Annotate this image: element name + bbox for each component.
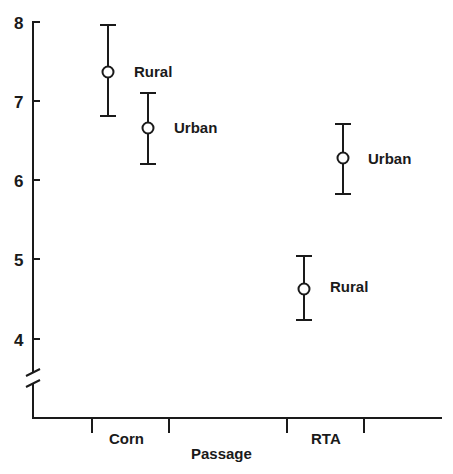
y-tick-label-8: 8 (14, 14, 23, 33)
x-axis-label: Passage (191, 445, 252, 462)
error-bar-corn-rural (100, 25, 116, 116)
annotation-rta-urban: Urban (368, 150, 411, 167)
annotation-corn-urban: Urban (174, 119, 217, 136)
y-tick-label-4: 4 (14, 331, 24, 350)
error-bar-chart: 8 7 6 5 4 Rural Urban Urban Rural Corn R… (0, 0, 453, 474)
error-bar-rta-urban (335, 124, 351, 194)
y-tick-label-7: 7 (14, 93, 23, 112)
annotation-corn-rural: Rural (134, 63, 172, 80)
error-bar-corn-urban (140, 93, 156, 164)
annotation-rta-rural: Rural (330, 278, 368, 295)
x-category-corn: Corn (109, 430, 144, 447)
x-category-rta: RTA (311, 430, 341, 447)
y-tick-label-5: 5 (14, 251, 23, 270)
error-bar-rta-rural (296, 256, 312, 320)
y-tick-label-6: 6 (14, 172, 23, 191)
